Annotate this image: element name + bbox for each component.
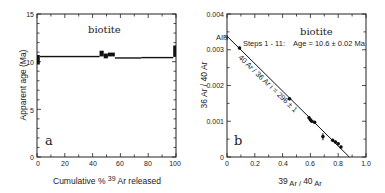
data-point — [313, 121, 317, 125]
age-step — [40, 56, 100, 57]
panel-a-xlabel: Cumulative % 39 Ar released — [53, 175, 161, 186]
panel-b: 0 0.001 0.002 0.003 0.004 0 0.2 0.4 0.6 … — [199, 11, 371, 188]
xtick-label-0: 0 — [36, 160, 40, 167]
xtick-label-0.8: 0.8 — [333, 160, 343, 167]
age-annotation: Age = 10.6 ± 0.02 Ma — [293, 39, 366, 48]
panel-a-frame — [37, 14, 176, 157]
panel-b-xlabel: 39 Ar / 40 Ar — [278, 176, 322, 188]
ytick-label-5: 5 — [30, 107, 34, 114]
xtick-label-0.4: 0.4 — [278, 160, 288, 167]
panel-b-letter: b — [234, 133, 242, 148]
age-step — [115, 57, 141, 58]
data-point — [336, 142, 340, 146]
xtick-label-0.6: 0.6 — [305, 160, 315, 167]
age-step — [104, 54, 108, 59]
panel-b-frame — [227, 14, 366, 157]
data-point — [339, 145, 343, 149]
panel-b-title: biotite — [300, 26, 333, 37]
xtick-label-0: 0 — [225, 160, 229, 167]
panel-a-ticks — [37, 14, 176, 157]
age-step — [173, 45, 176, 56]
ytick-label-15: 15 — [26, 11, 34, 18]
ytick-label-0.001: 0.001 — [206, 118, 224, 125]
ytick-label-0.004: 0.004 — [206, 11, 224, 18]
data-point — [321, 135, 325, 139]
panel-a-title: biotite — [88, 24, 121, 35]
xtick-label-1.0: 1.0 — [361, 160, 371, 167]
ytick-label-0.003: 0.003 — [206, 46, 224, 53]
age-step — [141, 57, 173, 58]
steps-annotation: Steps 1 - 11: — [243, 39, 285, 48]
age-step — [108, 53, 115, 57]
age-spectrum-steps — [37, 45, 176, 64]
figure-canvas: 0 5 10 15 0 20 40 60 80 100 biotite a Ap… — [0, 0, 385, 193]
isochron-line-label: 40 Ar / 36 Ar i = 296 ± 1 — [237, 53, 300, 114]
panel-b-ylabel: 36 Ar / 40 Ar — [199, 61, 209, 108]
xtick-label-60: 60 — [116, 160, 124, 167]
panel-b-ticks — [227, 14, 366, 157]
age-step — [37, 55, 40, 65]
panel-a-ylabel: Apparent age (Ma) — [18, 49, 28, 120]
panel-a: 0 5 10 15 0 20 40 60 80 100 biotite a Ap… — [18, 11, 181, 186]
xtick-label-40: 40 — [89, 160, 97, 167]
xtick-label-100: 100 — [169, 160, 181, 167]
ytick-label-0: 0 — [220, 154, 224, 161]
xtick-label-20: 20 — [61, 160, 69, 167]
data-point — [238, 46, 242, 50]
age-step — [100, 51, 104, 57]
ytick-label-0: 0 — [30, 154, 34, 161]
xtick-label-80: 80 — [144, 160, 152, 167]
ytick-label-0.002: 0.002 — [206, 82, 224, 89]
xtick-label-0.2: 0.2 — [250, 160, 260, 167]
panel-a-letter: a — [45, 133, 53, 148]
